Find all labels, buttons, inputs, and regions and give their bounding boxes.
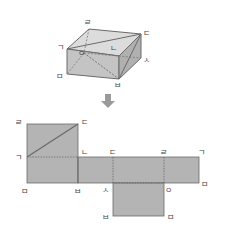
net-strip	[78, 157, 199, 183]
vertex-label: ㅂ	[102, 213, 109, 222]
vertex-label: ㄷ	[81, 118, 88, 127]
cuboid: ㄹ ㄷ ㄱ ㄴ ㅇ ㅅ ㅁ ㅂ	[56, 18, 150, 90]
vertex-label: ㅂ	[114, 81, 121, 90]
vertex-label: ㄱ	[198, 148, 205, 157]
vertex-label: ㄱ	[57, 43, 64, 52]
vertex-label: ㅁ	[21, 187, 28, 196]
vertex-label: ㅁ	[167, 213, 174, 222]
vertex-label: ㅇ	[165, 186, 172, 195]
vertex-label: ㅂ	[74, 187, 81, 196]
vertex-label: ㅇ	[78, 49, 85, 58]
vertex-label: ㄱ	[15, 153, 22, 162]
vertex-label: ㄴ	[110, 44, 117, 53]
vertex-label: ㄷ	[109, 148, 116, 157]
vertex-label: ㄴ	[81, 148, 88, 157]
vertex-label: ㄹ	[84, 18, 91, 27]
vertex-label: ㅁ	[56, 72, 63, 81]
vertex-label: ㅁ	[201, 180, 208, 189]
net-bottom-flap	[113, 183, 164, 216]
diagram-canvas: ㄹ ㄷ ㄱ ㄴ ㅇ ㅅ ㅁ ㅂ ㄹ ㄷ ㄱ ㄴ ㅁ ㅂ ㄷ ㄹ ㄱ ㅅ ㅇ	[0, 0, 225, 236]
net-left-panel	[27, 124, 78, 183]
vertex-label: ㄹ	[15, 118, 22, 127]
vertex-label: ㅅ	[143, 56, 150, 65]
vertex-label: ㄷ	[143, 29, 150, 38]
down-arrow-icon	[101, 94, 115, 108]
net: ㄹ ㄷ ㄱ ㄴ ㅁ ㅂ ㄷ ㄹ ㄱ ㅅ ㅇ ㅁ ㅂ ㅁ	[15, 118, 208, 222]
vertex-label: ㅅ	[102, 186, 109, 195]
vertex-label: ㄹ	[160, 148, 167, 157]
